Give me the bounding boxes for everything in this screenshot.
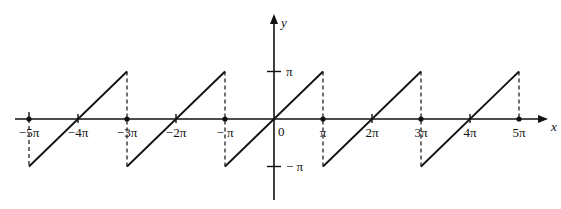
x-tick-dot (418, 116, 423, 121)
y-axis-label: y (279, 15, 287, 30)
y-tick-label: π (286, 64, 293, 79)
x-tick-label: −4π (68, 125, 89, 140)
x-tick-label: 5π (512, 125, 526, 140)
x-axis-label: x (550, 119, 557, 134)
x-tick-label: −2π (166, 125, 187, 140)
x-tick-dot (320, 116, 325, 121)
x-tick-dot (516, 116, 521, 121)
plot-canvas: −5π−4π−3π−2π− ππ2π3π4π5ππ− π x y 0 (0, 0, 561, 209)
x-tick-label: 4π (463, 125, 477, 140)
x-tick-label: 3π (414, 125, 428, 140)
x-tick-label: − π (216, 125, 234, 140)
x-tick-label: −5π (19, 125, 40, 140)
x-tick-dot (124, 116, 129, 121)
x-tick-label: π (320, 125, 327, 140)
y-tick-label: − π (286, 159, 304, 174)
x-tick-dot (222, 116, 227, 121)
x-tick-label: −3π (117, 125, 138, 140)
x-tick-label: 2π (365, 125, 379, 140)
origin-label: 0 (278, 124, 285, 139)
sawtooth-figure: −5π−4π−3π−2π− ππ2π3π4π5ππ− π x y 0 (0, 0, 561, 209)
